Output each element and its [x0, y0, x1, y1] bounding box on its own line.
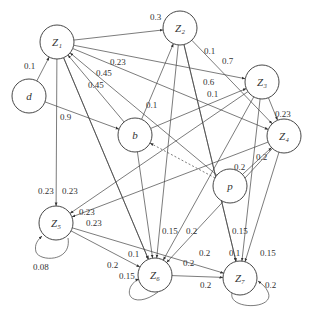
node-label: Z₆	[150, 269, 160, 281]
edge-weight-label: 0.2	[183, 258, 194, 268]
edge-weight-label: 0.15	[119, 271, 135, 281]
edge-weight-label: 0.1	[229, 248, 240, 258]
edge-b-to-z6	[137, 152, 152, 258]
node-label: Z₅	[51, 217, 61, 229]
edge-z6-to-z7	[172, 276, 223, 278]
edge-weight-label: 0.23	[62, 186, 78, 196]
edge-weight-label: 0.2	[186, 226, 197, 236]
edge-weight-label: 0.7	[222, 56, 234, 66]
edge-weight-label: 0.2	[200, 280, 211, 290]
node-p: p	[213, 169, 247, 203]
graph-svg: 0.10.30.70.230.450.450.90.230.230.10.10.…	[0, 0, 313, 315]
node-z4: Z₄	[267, 119, 301, 153]
node-b: b	[118, 118, 152, 152]
edge-b-to-z3	[151, 89, 247, 129]
edge-z4-to-z6	[167, 148, 273, 262]
node-label: Z₇	[235, 272, 245, 284]
edge-weight-label: 0.2	[107, 260, 118, 270]
edge-weight-label: 0.2	[265, 280, 276, 290]
edge-weight-label: 0.23	[110, 57, 126, 67]
node-z3: Z₃	[245, 65, 279, 99]
edge-z4-to-z7	[245, 152, 279, 262]
edge-weight-label: 0.08	[33, 262, 49, 272]
edge-d-to-b	[45, 102, 119, 129]
edge-weight-label: 0.1	[146, 100, 157, 110]
edge-weight-label: 0.15	[162, 226, 178, 236]
node-z6: Z₆	[138, 258, 172, 292]
edge-weight-label: 0.2	[199, 248, 210, 258]
node-label: d	[26, 90, 32, 102]
node-z7: Z₇	[223, 261, 257, 295]
edge-d-to-z1	[37, 57, 49, 81]
node-label: p	[226, 180, 233, 192]
node-label: Z₃	[257, 76, 267, 88]
edge-z1-to-z5	[56, 59, 57, 206]
edge-weight-label: 0.23	[79, 207, 95, 217]
edge-weight-label: 0.15	[232, 226, 248, 236]
edge-weight-label: 0.1	[128, 249, 139, 259]
edge-p-to-b	[150, 143, 215, 178]
node-d: d	[12, 79, 46, 113]
edge-weight-label: 0.23	[86, 218, 102, 228]
node-label: Z₁	[52, 36, 62, 48]
graph-diagram: 0.10.30.70.230.450.450.90.230.230.10.10.…	[0, 0, 313, 315]
edge-weight-label: 0.15	[260, 248, 276, 258]
node-z2: Z₂	[163, 11, 197, 45]
node-label: Z₂	[175, 22, 185, 34]
edge-weight-label: 0.45	[96, 68, 112, 78]
edge-z1-to-z2	[74, 30, 163, 40]
edge-weight-label: 0.6	[203, 77, 215, 87]
edge-weight-label: 0.23	[38, 186, 54, 196]
edges-layer	[37, 30, 279, 277]
edge-weight-label: 0.9	[60, 112, 72, 122]
edge-weight-label: 0.23	[275, 109, 291, 119]
edge-weight-label: 0.1	[204, 46, 215, 56]
node-z5: Z₅	[39, 206, 73, 240]
node-label: Z₄	[279, 130, 289, 142]
node-label: b	[132, 129, 138, 141]
edge-weight-label: 0.2	[256, 152, 267, 162]
edge-weight-label: 0.45	[88, 80, 104, 90]
edge-weight-label: 0.1	[24, 61, 35, 71]
edge-weight-label: 0.1	[207, 89, 218, 99]
node-z1: Z₁	[40, 25, 74, 59]
edge-weight-label: 0.3	[150, 12, 162, 22]
